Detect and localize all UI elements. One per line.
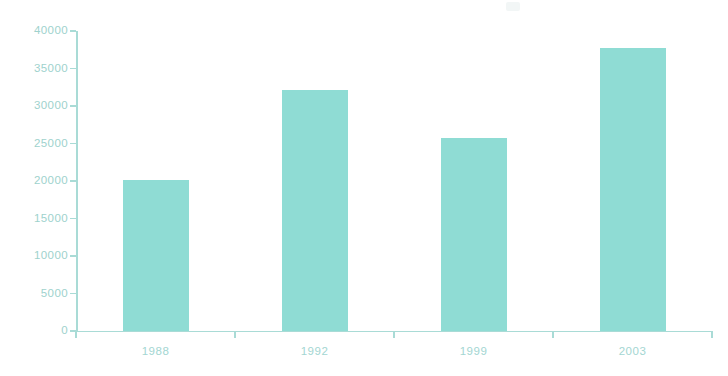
- bar-1992: [282, 90, 348, 331]
- y-axis-tick-label: 25000: [0, 138, 68, 150]
- y-axis-tick-label: 35000: [0, 63, 68, 75]
- scan-artifact: [506, 2, 520, 11]
- bar-1988: [123, 180, 189, 331]
- y-axis-tick-label: 20000: [0, 175, 68, 187]
- x-axis-tick-label: 1992: [255, 346, 375, 358]
- x-axis-tick: [393, 331, 394, 338]
- x-axis-end-tick: [75, 331, 76, 338]
- bar-1999: [441, 138, 507, 331]
- y-axis-tick-label: 30000: [0, 100, 68, 112]
- x-axis-tick: [234, 331, 235, 338]
- y-axis-tick-label: 15000: [0, 213, 68, 225]
- x-axis-tick-label: 2003: [573, 346, 693, 358]
- bar-chart: 0500010000150002000025000300003500040000…: [0, 0, 728, 376]
- y-axis-tick-label: 0: [0, 325, 68, 337]
- y-axis-tick-label: 10000: [0, 250, 68, 262]
- plot-area: [76, 31, 712, 331]
- x-axis-tick-label: 1999: [414, 346, 534, 358]
- x-axis-tick-label: 1988: [96, 346, 216, 358]
- y-axis-tick-label: 5000: [0, 288, 68, 300]
- x-axis-tick: [552, 331, 553, 338]
- bar-2003: [600, 48, 666, 331]
- y-axis-tick-label: 40000: [0, 25, 68, 37]
- x-axis-end-tick: [711, 331, 712, 338]
